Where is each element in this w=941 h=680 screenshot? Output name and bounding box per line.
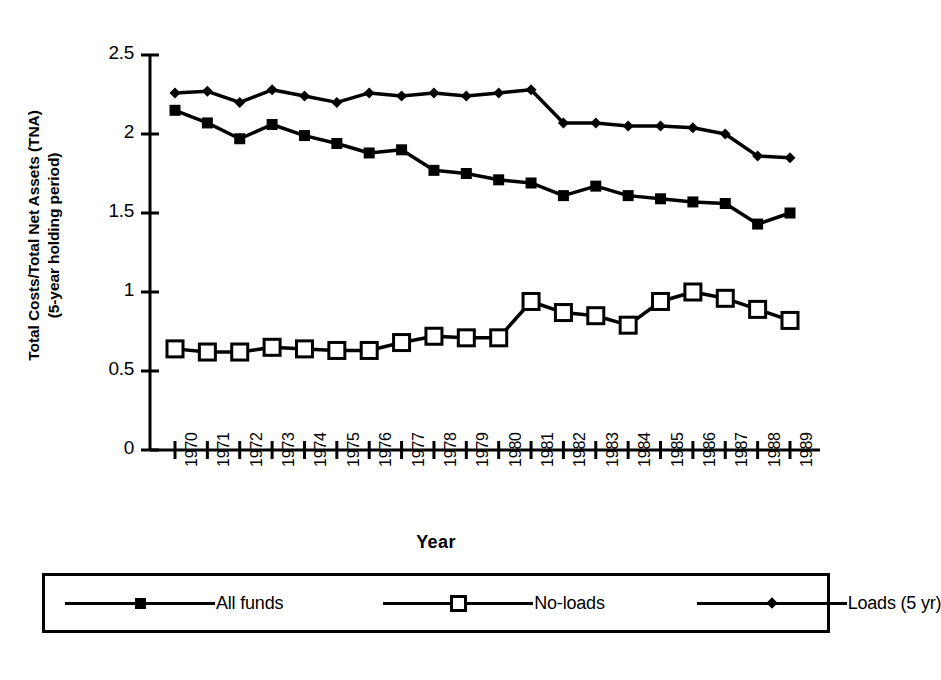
legend: All fundsNo-loadsLoads (5 yr) — [42, 573, 830, 633]
legend-sample — [697, 592, 847, 614]
x-tick-label: 1975 — [345, 432, 363, 467]
data-point — [717, 290, 733, 306]
data-point — [299, 130, 310, 141]
data-point — [491, 330, 507, 346]
x-tick-label: 1984 — [636, 432, 654, 467]
data-point — [458, 330, 474, 346]
x-tick-label: 1987 — [733, 432, 751, 467]
y-tick-label: 1.5 — [108, 200, 134, 222]
data-point — [267, 84, 278, 95]
x-tick-label: 1980 — [507, 432, 525, 467]
data-point — [396, 144, 407, 155]
data-point — [590, 117, 601, 128]
data-point — [296, 341, 312, 357]
data-point — [623, 190, 634, 201]
data-point — [394, 335, 410, 351]
y-tick-label: 0.5 — [108, 358, 134, 380]
data-point — [493, 87, 504, 98]
y-tick-label: 2.5 — [108, 42, 134, 64]
data-point — [329, 342, 345, 358]
data-point — [331, 97, 342, 108]
x-tick-label: 1974 — [312, 432, 330, 467]
legend-entry: All funds — [65, 576, 283, 630]
data-point — [202, 117, 213, 128]
data-point — [785, 152, 796, 163]
data-point — [526, 177, 537, 188]
x-tick-label: 1971 — [215, 432, 233, 467]
series-no-loads — [167, 284, 798, 360]
data-point — [299, 91, 310, 102]
data-point — [523, 293, 539, 309]
data-point — [623, 121, 634, 132]
data-point — [396, 91, 407, 102]
data-point — [167, 341, 183, 357]
data-point — [493, 174, 504, 185]
data-point — [461, 91, 472, 102]
legend-entry: Loads (5 yr) — [697, 576, 941, 630]
x-tick-label: 1982 — [571, 432, 589, 467]
legend-label: All funds — [216, 593, 283, 614]
y-tick-label: 0 — [124, 437, 134, 459]
data-point — [461, 168, 472, 179]
data-point — [364, 147, 375, 158]
data-point — [653, 293, 669, 309]
data-point — [264, 339, 280, 355]
legend-label: Loads (5 yr) — [848, 593, 941, 614]
x-tick-label: 1983 — [604, 432, 622, 467]
data-point — [199, 344, 215, 360]
data-point — [232, 344, 248, 360]
data-point — [234, 133, 245, 144]
data-point — [785, 208, 796, 219]
x-tick-label: 1985 — [669, 432, 687, 467]
x-tick-label: 1970 — [183, 432, 201, 467]
x-tick-label: 1989 — [798, 432, 816, 467]
data-point — [364, 87, 375, 98]
x-tick-label: 1977 — [410, 432, 428, 467]
x-tick-label: 1981 — [539, 432, 557, 467]
x-tick-label: 1979 — [474, 432, 492, 467]
x-tick-label: 1988 — [766, 432, 784, 467]
data-point — [655, 193, 666, 204]
series-all-funds — [170, 105, 796, 230]
series-loads-5-yr — [170, 84, 796, 163]
data-point — [687, 196, 698, 207]
x-tick-label: 1973 — [280, 432, 298, 467]
data-point — [428, 165, 439, 176]
legend-marker-filled-diamond-icon — [766, 597, 777, 608]
data-point — [750, 301, 766, 317]
data-point — [655, 121, 666, 132]
data-point — [428, 87, 439, 98]
legend-entry: No-loads — [383, 576, 604, 630]
data-point — [170, 87, 181, 98]
data-point — [590, 181, 601, 192]
legend-marker-filled-square-icon — [135, 598, 146, 609]
data-point — [234, 97, 245, 108]
data-point — [267, 119, 278, 130]
data-point — [782, 312, 798, 328]
data-point — [202, 86, 213, 97]
data-point — [331, 138, 342, 149]
legend-sample — [383, 592, 533, 614]
data-point — [426, 328, 442, 344]
data-point — [558, 190, 569, 201]
x-tick-label: 1976 — [377, 432, 395, 467]
data-point — [620, 317, 636, 333]
data-point — [720, 198, 731, 209]
x-tick-label: 1986 — [701, 432, 719, 467]
legend-label: No-loads — [534, 593, 604, 614]
data-point — [555, 305, 571, 321]
data-point — [170, 105, 181, 116]
y-tick-label: 1 — [124, 279, 134, 301]
data-point — [361, 342, 377, 358]
x-axis-title: Year — [0, 532, 872, 553]
x-tick-label: 1978 — [442, 432, 460, 467]
data-point — [687, 122, 698, 133]
data-point — [685, 284, 701, 300]
legend-sample — [65, 592, 215, 614]
x-tick-label: 1972 — [248, 432, 266, 467]
data-point — [752, 219, 763, 230]
y-tick-label: 2 — [124, 121, 134, 143]
legend-marker-open-square-icon — [450, 595, 467, 612]
data-point — [588, 308, 604, 324]
